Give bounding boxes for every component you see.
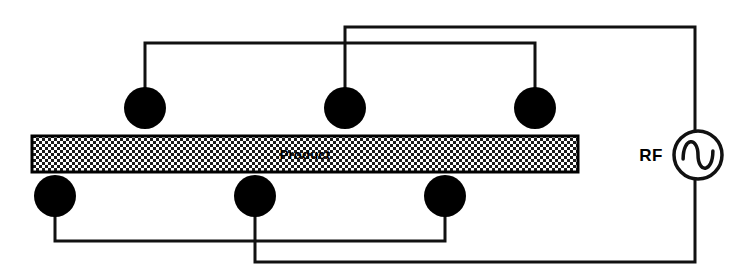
top-electrode-3[interactable] [514, 87, 556, 129]
rf-electrode-diagram: Product RF [0, 0, 749, 280]
bottom-electrode-group [34, 175, 466, 217]
bottom-electrode-2[interactable] [234, 175, 276, 217]
product-label: Product [280, 147, 331, 162]
rf-source-group: RF [639, 131, 722, 179]
top-electrode-group [124, 87, 556, 129]
product-slab: Product [32, 136, 578, 172]
diagram-canvas: Product RF [0, 0, 749, 280]
bottom-electrode-3[interactable] [424, 175, 466, 217]
wire-bottom-outer-bus [255, 179, 695, 262]
top-electrode-2[interactable] [324, 87, 366, 129]
bottom-electrode-1[interactable] [34, 175, 76, 217]
rf-source-label: RF [639, 146, 663, 165]
top-electrode-1[interactable] [124, 87, 166, 129]
